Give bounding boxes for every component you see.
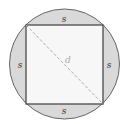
label-bottom-side: s [62, 106, 67, 116]
diagram-canvas: s s s s d [0, 0, 127, 124]
label-diagonal: d [65, 55, 71, 65]
label-top-side: s [62, 14, 67, 24]
inscribed-square-diagram: s s s s d [0, 0, 127, 124]
label-left-side: s [18, 60, 23, 70]
label-right-side: s [107, 60, 112, 70]
